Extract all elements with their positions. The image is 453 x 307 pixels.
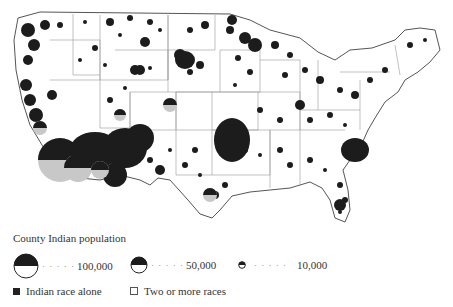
legend-size-100000: · · · · · 100,000 <box>13 253 113 279</box>
half-circle-medium-icon <box>130 256 148 274</box>
empty-square-icon <box>130 287 138 295</box>
dark-square-icon <box>13 288 20 295</box>
legend-size-scale: · · · · · 100,000 · · · · · 50,000 · · ·… <box>0 253 453 283</box>
us-county-map <box>0 0 453 228</box>
half-circle-small-icon <box>238 261 246 269</box>
us-outline <box>14 12 440 222</box>
legend-key-indian-alone: Indian race alone <box>13 285 102 297</box>
legend-size-10000: · · · · · 10,000 <box>238 259 327 271</box>
legend-size-50000: · · · · · 50,000 <box>130 256 216 274</box>
legend-categories: Indian race alone Two or more races <box>0 285 453 301</box>
half-circle-large-icon <box>13 253 39 279</box>
legend-title: County Indian population <box>13 232 126 244</box>
legend-key-two-or-more: Two or more races <box>130 285 226 297</box>
